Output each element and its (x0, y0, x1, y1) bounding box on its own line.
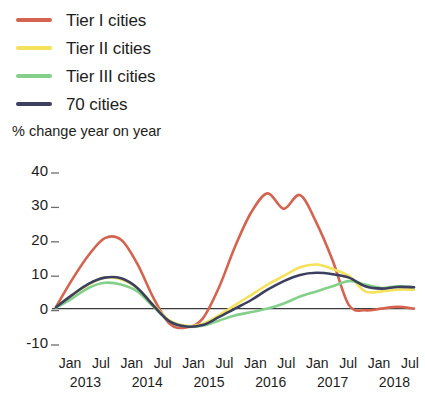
x-year-label: 2015 (193, 374, 224, 390)
x-tick-label: Jul (339, 355, 357, 371)
chart-svg: 403020100-10 JanJulJanJulJanJulJanJulJan… (0, 0, 425, 393)
x-year-label: 2018 (379, 374, 410, 390)
x-tick-label: Jul (216, 355, 234, 371)
x-tick-label: Jul (277, 355, 295, 371)
x-tick-label: Jul (92, 355, 110, 371)
x-year-label: 2017 (317, 374, 348, 390)
y-tick-label: 0 (40, 300, 48, 317)
x-year-label: 2013 (70, 374, 101, 390)
x-tick-label: Jan (244, 355, 267, 371)
y-tick-label: 30 (31, 196, 48, 213)
x-year-label: 2016 (255, 374, 286, 390)
x-year-label: 2014 (132, 374, 163, 390)
series-line (56, 273, 414, 327)
x-tick-label: Jan (368, 355, 391, 371)
x-tick-label: Jan (182, 355, 205, 371)
y-tick-label: -10 (26, 334, 48, 351)
x-tick-label: Jan (306, 355, 329, 371)
x-tick-label: Jan (59, 355, 82, 371)
y-tick-label: 20 (31, 231, 48, 248)
x-axis-ticks: JanJulJanJulJanJulJanJulJanJulJanJul2013… (59, 355, 419, 390)
x-tick-label: Jul (154, 355, 172, 371)
series-lines (56, 193, 414, 328)
y-axis-ticks: 403020100-10 (26, 162, 59, 351)
x-tick-label: Jan (121, 355, 144, 371)
plot-area: 403020100-10 JanJulJanJulJanJulJanJulJan… (0, 0, 425, 393)
x-tick-label: Jul (401, 355, 419, 371)
y-tick-label: 10 (31, 265, 48, 282)
y-tick-label: 40 (31, 162, 48, 179)
chart-root: Tier I cities Tier II cities Tier III ci… (0, 0, 425, 393)
